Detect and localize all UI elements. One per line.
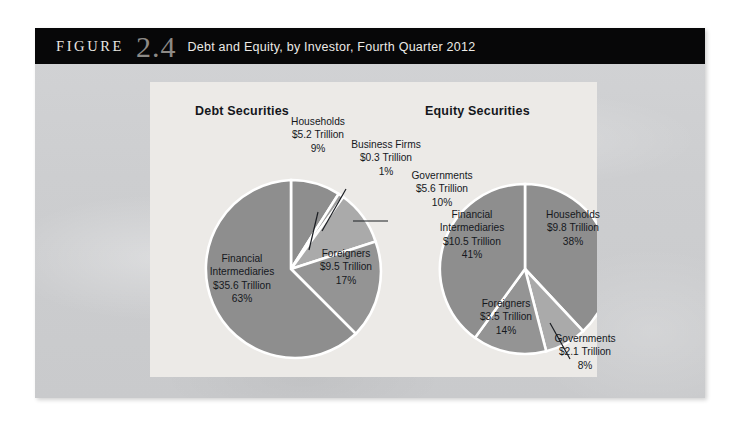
label-equity-financial-intermediaries: Financial Intermediaries $10.5 Trillion … [420,208,524,261]
label-equity-foreigners: Foreigners $3.5 Trillion 14% [458,297,554,337]
label-equity-governments: Governments $2.1 Trillion 8% [533,332,637,372]
figure-title-bar: FIGURE 2.4 Debt and Equity, by Investor,… [35,28,705,64]
label-debt-governments: Governments $5.6 Trillion 10% [388,169,496,209]
chart-panel: Debt Securities Equity Securities [150,82,597,377]
label-debt-foreigners: Foreigners $9.5 Trillion 17% [296,247,396,287]
figure-label: FIGURE [56,38,124,55]
label-equity-households: Households $9.8 Trillion 38% [523,208,623,248]
figure-number: 2.4 [136,32,177,62]
figure-container: FIGURE 2.4 Debt and Equity, by Investor,… [35,28,705,398]
equity-securities-heading: Equity Securities [425,104,530,118]
figure-caption: Debt and Equity, by Investor, Fourth Qua… [187,40,475,54]
label-debt-financial-intermediaries: Financial Intermediaries $35.6 Trillion … [188,252,296,305]
